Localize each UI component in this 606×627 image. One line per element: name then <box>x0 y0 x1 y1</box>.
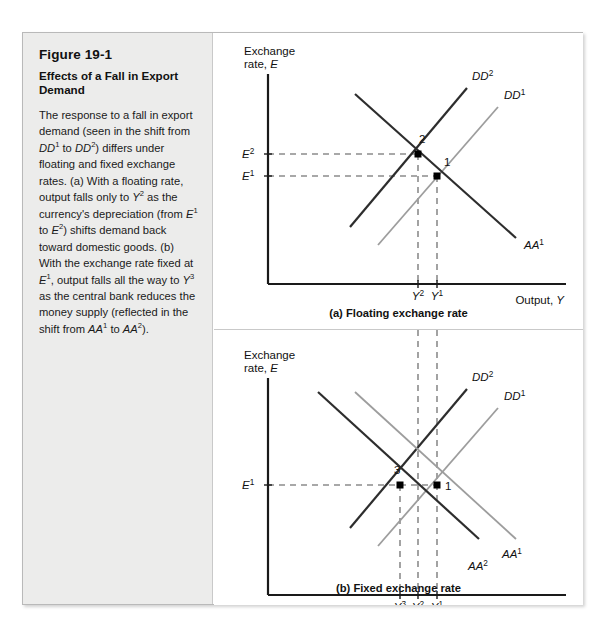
label-superscript: 2 <box>483 559 488 568</box>
curve-label-AA2: AA2 <box>467 559 488 572</box>
chart-svg-floating: DD1DD2AA112E2E1Y2Y1Exchangerate, EOutput… <box>214 33 583 330</box>
label-superscript: 1 <box>521 389 526 398</box>
x-tick-label: Y2 <box>412 600 425 605</box>
caption-superscript: 1 <box>103 321 107 330</box>
y-tick-label: E2 <box>242 147 255 160</box>
caption-italic-term: E <box>51 224 58 236</box>
caption-superscript: 2 <box>140 190 144 199</box>
label-superscript: 3 <box>402 600 407 605</box>
point-label-1: 1 <box>444 156 450 168</box>
y-tick-label: E1 <box>242 169 255 182</box>
label-superscript: 2 <box>420 600 425 605</box>
label-superscript: 1 <box>539 238 544 247</box>
y-axis-symbol: E <box>270 58 278 70</box>
caption-superscript: 3 <box>190 272 194 281</box>
caption-italic-term: AA <box>123 323 138 335</box>
curve-AA1 <box>355 94 516 238</box>
panel-a-caption: (a) Floating exchange rate <box>214 307 583 319</box>
caption-superscript: 2 <box>91 140 95 149</box>
y-tick-label: E1 <box>242 478 255 491</box>
chart-panel-floating: DD1DD2AA112E2E1Y2Y1Exchangerate, EOutput… <box>214 33 583 330</box>
label-superscript: 1 <box>250 478 255 487</box>
x-axis-symbol: Y <box>556 294 565 306</box>
curve-label-AA1: AA1 <box>501 547 522 560</box>
caption-italic-term: Y <box>183 274 190 286</box>
y-axis-title-line1: Exchange <box>244 45 295 57</box>
figure-number: Figure 19-1 <box>39 47 198 62</box>
caption-italic-term: DD <box>75 142 91 154</box>
label-superscript: 1 <box>521 88 526 97</box>
x-tick-label: Y2 <box>412 289 425 302</box>
point-label-3: 3 <box>394 464 400 476</box>
curve-label-DD2: DD2 <box>472 370 494 383</box>
chart-panel-fixed: DD1DD2AA1AA231E1Y3Y2Y1Exchangerate, EOut… <box>214 330 583 605</box>
figure-caption-text: The response to a fall in export demand … <box>39 107 198 337</box>
curve-DD2 <box>350 389 467 528</box>
caption-superscript: 2 <box>59 222 63 231</box>
figure-frame: Figure 19-1 Effects of a Fall in Export … <box>22 32 583 605</box>
label-superscript: 2 <box>420 289 425 298</box>
figure-caption-column: Figure 19-1 Effects of a Fall in Export … <box>23 33 213 604</box>
caption-italic-term: AA <box>88 323 103 335</box>
x-tick-label: Y1 <box>431 289 444 302</box>
equilibrium-point-2[interactable] <box>415 151 422 158</box>
label-superscript: 1 <box>250 169 255 178</box>
label-superscript: 2 <box>489 69 494 78</box>
caption-italic-term: Y <box>132 191 139 203</box>
equilibrium-point-1[interactable] <box>434 482 441 489</box>
caption-superscript: 1 <box>55 140 59 149</box>
x-axis-title: Output, Y <box>515 294 565 306</box>
panel-b-caption: (b) Fixed exchange rate <box>214 582 583 594</box>
y-axis-title-line2: rate, E <box>244 362 278 374</box>
curve-label-DD1: DD1 <box>504 389 526 402</box>
x-tick-label: Y1 <box>431 600 444 605</box>
equilibrium-point-1[interactable] <box>434 173 441 180</box>
caption-superscript: 2 <box>138 321 142 330</box>
chart-svg-fixed: DD1DD2AA1AA231E1Y3Y2Y1Exchangerate, EOut… <box>214 330 583 605</box>
point-label-1: 1 <box>445 480 451 492</box>
point-label-2: 2 <box>419 133 425 145</box>
x-tick-label: Y3 <box>394 600 407 605</box>
label-superscript: 2 <box>250 147 255 156</box>
curve-label-DD2: DD2 <box>472 69 494 82</box>
figure-title: Effects of a Fall in Export Demand <box>39 69 198 98</box>
y-axis-title-line2: rate, E <box>244 58 278 70</box>
label-superscript: 1 <box>517 547 522 556</box>
y-axis-symbol: E <box>270 362 278 374</box>
curve-label-AA1: AA1 <box>523 238 544 251</box>
equilibrium-point-3[interactable] <box>397 482 404 489</box>
caption-superscript: 1 <box>46 272 50 281</box>
label-superscript: 1 <box>439 289 444 298</box>
caption-superscript: 1 <box>193 206 197 215</box>
label-superscript: 2 <box>489 370 494 379</box>
label-superscript: 1 <box>439 600 444 605</box>
caption-italic-term: DD <box>39 142 55 154</box>
y-axis-title-line1: Exchange <box>244 349 295 361</box>
curve-label-DD1: DD1 <box>504 88 526 101</box>
